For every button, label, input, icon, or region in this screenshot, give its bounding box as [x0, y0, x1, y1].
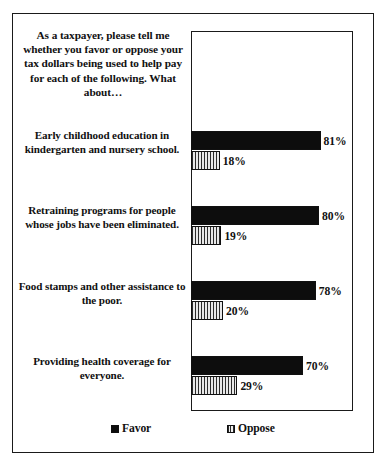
bar-value-oppose-0: 18%	[223, 154, 246, 167]
bar-oppose-0	[191, 151, 220, 170]
bar-oppose-2	[191, 301, 223, 320]
legend-entry-oppose: Oppose	[227, 422, 275, 435]
legend-label-favor: Favor	[122, 422, 151, 435]
chart-frame: As a taxpayer, please tell me whether yo…	[12, 13, 374, 453]
bar-value-favor-3: 70%	[306, 359, 329, 372]
bar-group-2: 78% 20%	[192, 280, 352, 324]
bar-favor-1	[191, 206, 319, 225]
bar-value-favor-1: 80%	[322, 209, 345, 222]
bar-oppose-3	[191, 376, 237, 395]
category-label-0: Early childhood education in kindergarte…	[15, 128, 189, 156]
bar-value-oppose-3: 29%	[240, 379, 263, 392]
bar-value-favor-2: 78%	[319, 284, 342, 297]
legend-swatch-oppose-icon	[227, 425, 235, 433]
plot-area: 81% 18% 80% 19% 78% 20%	[191, 31, 353, 411]
bar-value-favor-0: 81%	[324, 134, 347, 147]
bar-oppose-1	[191, 226, 221, 245]
bar-value-oppose-1: 19%	[224, 229, 247, 242]
category-label-column: As a taxpayer, please tell me whether yo…	[13, 14, 191, 411]
chart-question-title: As a taxpayer, please tell me whether yo…	[19, 28, 187, 99]
legend-label-oppose: Oppose	[238, 422, 275, 435]
bar-value-oppose-2: 20%	[226, 304, 249, 317]
bar-favor-0	[191, 131, 321, 150]
bar-group-3: 70% 29%	[192, 355, 352, 399]
legend-swatch-favor-icon	[111, 425, 119, 433]
legend-entry-favor: Favor	[111, 422, 151, 435]
bar-favor-3	[191, 356, 303, 375]
category-label-1: Retraining programs for people whose job…	[15, 203, 189, 231]
bar-favor-2	[191, 281, 316, 300]
chart-legend: Favor Oppose	[13, 422, 375, 444]
category-label-3: Providing health coverage for everyone.	[15, 354, 189, 382]
bar-group-0: 81% 18%	[192, 130, 352, 174]
bar-group-1: 80% 19%	[192, 205, 352, 249]
category-label-2: Food stamps and other assistance to the …	[15, 279, 189, 307]
